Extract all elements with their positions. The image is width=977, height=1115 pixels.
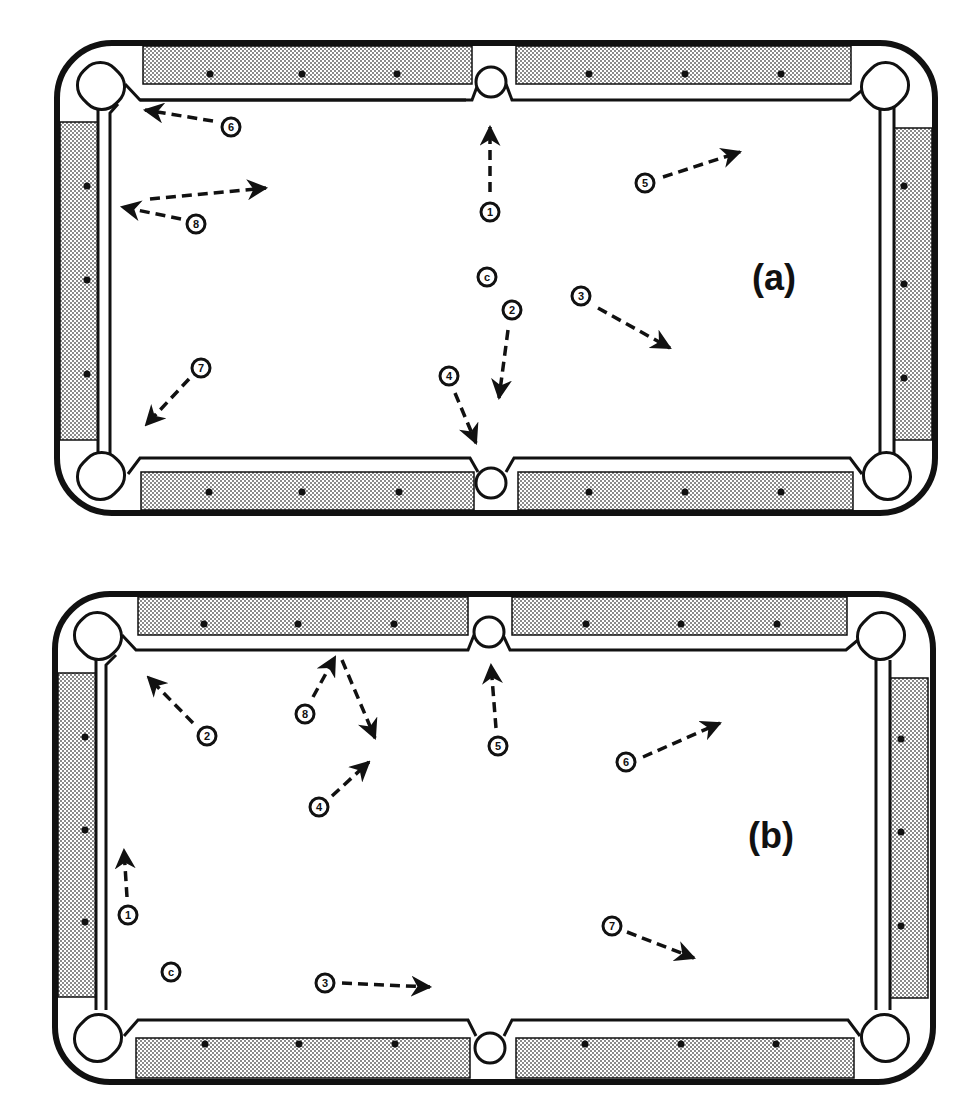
svg-text:7: 7: [609, 920, 615, 932]
rail-left: [58, 673, 96, 997]
ball-1: 1: [481, 203, 499, 221]
svg-text:2: 2: [509, 304, 515, 316]
rail-bottom-left: [136, 1038, 470, 1078]
svg-text:4: 4: [316, 801, 323, 813]
svg-text:7: 7: [198, 362, 204, 374]
ball-2: 2: [503, 301, 521, 319]
cue-ball: c: [162, 963, 180, 981]
rail-bottom-left: [141, 472, 474, 510]
svg-text:5: 5: [642, 177, 648, 189]
ball-4: 4: [440, 367, 458, 385]
rail-top-left: [143, 46, 472, 84]
rail-top-left: [138, 597, 468, 635]
pool-table-a: 12345678c: [0, 0, 977, 540]
ball-4: 4: [310, 798, 328, 816]
ball-5: 5: [636, 174, 654, 192]
svg-text:1: 1: [487, 206, 493, 218]
rail-left: [60, 122, 98, 440]
ball-7: 7: [603, 917, 621, 935]
ball-8: 8: [296, 705, 314, 723]
rail-right: [890, 678, 928, 998]
panel-label-b: (b): [748, 815, 794, 857]
ball-1: 1: [119, 906, 137, 924]
svg-text:6: 6: [623, 756, 629, 768]
ball-2: 2: [198, 727, 216, 745]
ball-5: 5: [489, 737, 507, 755]
rail-bottom-right: [516, 1038, 854, 1078]
svg-text:3: 3: [578, 290, 584, 302]
ball-7: 7: [192, 359, 210, 377]
cue-ball: c: [478, 268, 496, 286]
svg-text:8: 8: [302, 708, 308, 720]
svg-text:8: 8: [193, 218, 199, 230]
svg-text:4: 4: [446, 370, 453, 382]
ball-8: 8: [187, 215, 205, 233]
svg-text:2: 2: [204, 730, 210, 742]
ball-6: 6: [222, 118, 240, 136]
svg-text:6: 6: [228, 121, 234, 133]
rail-right: [894, 128, 932, 440]
panel-label-a: (a): [752, 257, 796, 299]
rail-top-right: [512, 597, 847, 635]
table-frame: [55, 594, 933, 1082]
svg-text:1: 1: [125, 909, 131, 921]
pool-table-b: 12345678c: [0, 555, 977, 1115]
ball-3: 3: [572, 287, 590, 305]
svg-text:3: 3: [322, 977, 328, 989]
svg-text:5: 5: [495, 740, 501, 752]
svg-text:c: c: [484, 271, 490, 283]
rail-top-right: [516, 46, 851, 84]
svg-text:c: c: [168, 966, 174, 978]
ball-3: 3: [316, 974, 334, 992]
ball-6: 6: [617, 753, 635, 771]
